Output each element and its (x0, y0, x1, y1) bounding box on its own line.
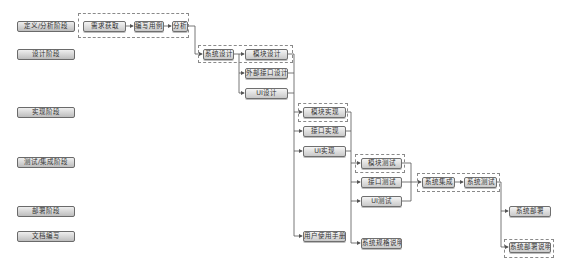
node-use-cases: 编写用例 (134, 21, 164, 32)
node-analysis: 分析 (172, 21, 188, 32)
node-ui-design: UI设计 (245, 88, 288, 99)
node-module-design: 模块设计 (245, 49, 288, 60)
phase-design: 设计阶段 (17, 49, 75, 60)
arrow-sysdesign-to-uidesign (239, 73, 244, 93)
node-system-integration: 系统集成 (422, 177, 455, 188)
node-user-manual: 用户使用手册 (303, 231, 346, 242)
phase-define: 定义/分析阶段 (17, 21, 75, 32)
node-system-deploy: 系统部署 (509, 206, 551, 217)
node-requirements: 需求获取 (83, 21, 126, 32)
phase-test: 测试/集成阶段 (17, 157, 75, 168)
node-module-test: 模块测试 (361, 158, 402, 169)
phase-deploy: 部署阶段 (17, 206, 75, 217)
node-interface-impl: 接口实现 (303, 126, 346, 137)
node-system-design: 系统设计 (203, 49, 234, 60)
line-moduleimpl-out (346, 112, 351, 243)
node-module-impl: 模块实现 (303, 107, 346, 118)
node-system-spec: 系统规格说明 (361, 238, 402, 249)
node-external-interface-design: 外部接口设计 (245, 68, 288, 79)
node-ui-test: UI测试 (361, 196, 402, 207)
phase-implement: 实现阶段 (17, 107, 75, 118)
node-deploy-doc: 系统部署说明 (509, 242, 551, 253)
connector-lines (0, 0, 567, 272)
node-system-test: 系统测试 (464, 177, 497, 188)
line-moduledesign-out (288, 54, 294, 236)
node-interface-test: 接口测试 (361, 177, 402, 188)
node-ui-impl: UI实现 (303, 146, 346, 157)
phase-docs: 文档编写 (17, 231, 75, 242)
